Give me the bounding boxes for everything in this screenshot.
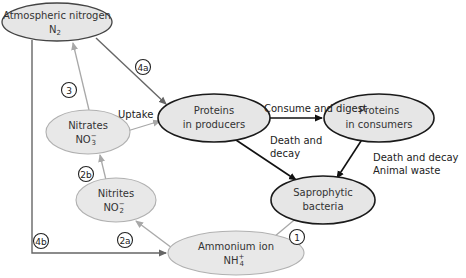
- edge-label-death-producers-1: Death and: [270, 135, 322, 146]
- nitrogen-cycle-diagram: Atmospheric nitrogen N2 Nitrates NO−3 Ni…: [0, 0, 466, 278]
- node-nitrates-formula: NO−3: [75, 132, 96, 147]
- svg-text:4a: 4a: [137, 63, 148, 73]
- arrow-consumers-death-decay: [337, 138, 363, 178]
- edge-label-death-consumers-2: Animal waste: [373, 165, 440, 176]
- node-producers-line1: Proteins: [194, 105, 234, 116]
- node-bacteria-line1: Saprophytic: [293, 187, 353, 198]
- node-ammonium-formula: NH+4: [224, 253, 245, 268]
- svg-text:3: 3: [66, 86, 72, 96]
- node-proteins-in-consumers: Proteins in consumers: [324, 94, 434, 142]
- node-nitrates-label: Nitrates: [68, 120, 108, 131]
- node-nitrites: Nitrites NO−2: [76, 178, 156, 222]
- marker-4b: 4b: [34, 234, 49, 249]
- node-producers-line2: in producers: [183, 119, 245, 130]
- node-nitrites-formula: NO−2: [103, 200, 124, 215]
- marker-3: 3: [62, 83, 77, 98]
- edge-label-uptake: Uptake: [118, 109, 153, 120]
- node-atmospheric-nitrogen: Atmospheric nitrogen N2: [2, 3, 112, 41]
- node-ammonium-ion: Ammonium ion NH+4: [168, 231, 304, 275]
- svg-text:2b: 2b: [80, 170, 92, 180]
- node-saprophytic-bacteria: Saprophytic bacteria: [271, 176, 375, 224]
- svg-text:1: 1: [294, 233, 300, 243]
- svg-text:2a: 2a: [119, 236, 130, 246]
- arrow-3-denitrification: [73, 43, 89, 110]
- node-bacteria-line2: bacteria: [302, 201, 343, 212]
- edge-label-consume-and-digest: Consume and digest: [264, 103, 367, 114]
- arrow-4a-fixation-to-producers: [96, 38, 166, 104]
- marker-2b: 2b: [79, 167, 94, 182]
- node-atmospheric-label: Atmospheric nitrogen: [3, 10, 111, 21]
- node-consumers-line2: in consumers: [345, 119, 412, 130]
- node-nitrites-label: Nitrites: [98, 188, 134, 199]
- marker-2a: 2a: [118, 233, 133, 248]
- edge-label-death-consumers-1: Death and decay: [373, 152, 459, 163]
- node-proteins-in-producers: Proteins in producers: [158, 94, 270, 142]
- arrow-2b-nitrification: [100, 155, 106, 180]
- marker-4a: 4a: [136, 60, 151, 75]
- edge-label-death-producers-2: decay: [270, 148, 300, 159]
- svg-text:4b: 4b: [35, 237, 47, 247]
- node-ammonium-label: Ammonium ion: [198, 241, 274, 252]
- marker-1: 1: [290, 230, 305, 245]
- arrow-2a-nitrification: [136, 221, 172, 248]
